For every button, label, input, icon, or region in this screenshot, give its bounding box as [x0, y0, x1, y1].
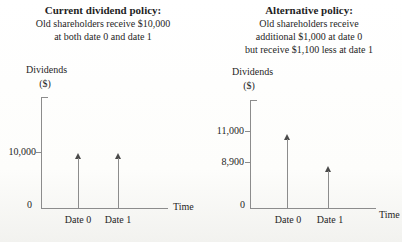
right-tick-label-8900: 8,900 — [206, 156, 244, 168]
left-tick-label-10000: 10,000 — [2, 146, 36, 158]
left-date1-arrow-stem — [118, 158, 119, 208]
left-chart-title: Current dividend policy: — [8, 4, 198, 17]
left-y-axis-line — [41, 97, 42, 209]
right-y-axis-label: Dividends — [232, 66, 273, 78]
left-date0-label: Date 0 — [56, 214, 100, 226]
right-chart-subtitle-line1: Old shareholders receive — [216, 17, 402, 30]
left-time-label: Time — [173, 201, 194, 213]
right-y-axis-line — [250, 100, 251, 208]
dividend-policy-figure: Current dividend policy: Old shareholder… — [0, 0, 402, 242]
right-chart-subtitle-line2: additional $1,000 at date 0 — [216, 30, 402, 43]
right-y-axis-unit: ($) — [234, 80, 264, 92]
right-chart-subtitle-line3: but receive $1,100 less at date 1 — [216, 43, 402, 56]
right-date1-label: Date 1 — [308, 214, 352, 226]
left-tick-mark-10000 — [36, 152, 42, 153]
right-date1-arrow-stem — [328, 171, 329, 208]
right-x-axis-line — [250, 208, 376, 209]
right-chart-title: Alternative policy: — [216, 4, 402, 17]
left-x-axis-line — [41, 208, 168, 209]
right-origin-label: 0 — [228, 199, 245, 211]
left-y-axis-top-serif — [41, 97, 48, 98]
right-date0-label: Date 0 — [266, 214, 310, 226]
right-date0-arrow-stem — [287, 139, 288, 208]
left-chart-subtitle-line1: Old shareholders receive $10,000 — [8, 17, 198, 30]
right-y-axis-top-serif — [250, 100, 257, 101]
right-tick-mark-8900 — [245, 162, 251, 163]
left-chart-subtitle-line2: at both date 0 and date 1 — [8, 30, 198, 43]
left-date0-arrow-stem — [78, 158, 79, 208]
left-y-axis-label: Dividends — [26, 64, 67, 76]
left-origin-label: 0 — [14, 199, 32, 211]
left-y-axis-unit: ($) — [30, 78, 60, 90]
right-time-label: Time — [379, 209, 400, 221]
right-tick-label-11000: 11,000 — [206, 125, 244, 137]
left-date1-label: Date 1 — [96, 214, 140, 226]
right-tick-mark-11000 — [245, 131, 251, 132]
